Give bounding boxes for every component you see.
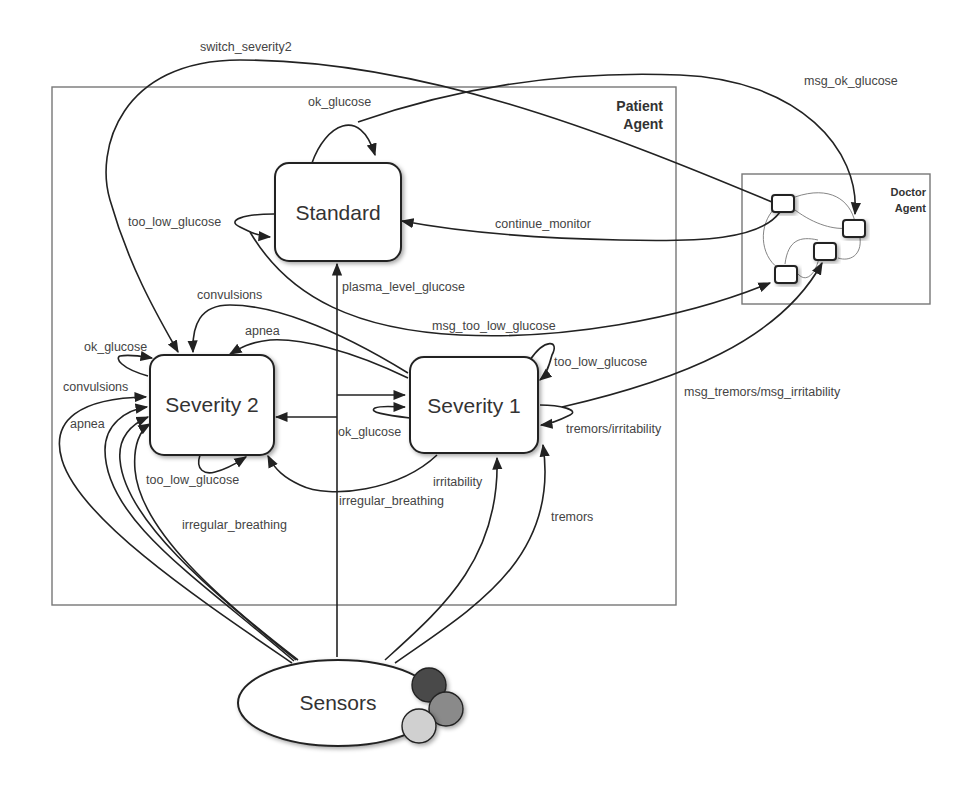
edge-label-s2-apnea-left: apnea [70,417,105,431]
edge-label-s2-convulsions-left: convulsions [63,380,128,394]
edge-s1-ok-glucose [373,406,410,418]
edge-label-s2-convulsions-top: convulsions [197,288,262,302]
state-severity2-label: Severity 2 [165,393,258,416]
edge-label-irritability: irritability [433,475,483,489]
edge-label-tremors: tremors [551,510,593,524]
edge-label-plasma-level-glucose: plasma_level_glucose [342,280,465,294]
edge-label-s1-ok-glucose: ok_glucose [338,425,401,439]
edge-s2-too-low-glucose [199,455,246,473]
state-diagram: Patient Agent Doctor Agent switch_severi… [0,0,978,788]
edge-irregular-breathing-sensors [135,424,298,660]
edge-label-msg-too-low-glucose: msg_too_low_glucose [432,319,556,333]
edge-label-standard-too-low-glucose: too_low_glucose [128,215,221,229]
state-standard-label: Standard [295,201,380,224]
state-severity1-label: Severity 1 [427,394,520,417]
sensors-node[interactable]: Sensors [238,660,463,746]
edge-continue-monitor [402,212,780,241]
edge-label-irregular-breathing-sensors: irregular_breathing [182,518,287,532]
doctor-agent-label: Doctor [891,186,927,198]
doctor-link [795,193,855,222]
edge-label-continue-monitor: continue_monitor [495,217,591,231]
edge-s2-ok-glucose [118,355,152,376]
edge-label-s2-apnea-top: apnea [245,324,280,338]
edge-msg-ok-glucose [358,74,855,214]
edge-label-s2-ok-glucose: ok_glucose [84,340,147,354]
sensor-light-icon [402,709,436,743]
edge-label-switch-severity2: switch_severity2 [200,40,292,54]
edge-standard-ok-glucose [312,125,375,163]
patient-agent-label: Patient [616,98,663,114]
doctor-agent-label-2: Agent [895,202,927,214]
edge-standard-too-low-glucose [235,214,274,237]
edge-irregular-breathing-s1 [268,455,437,492]
doctor-node [772,195,794,212]
state-severity1[interactable]: Severity 1 [410,357,538,453]
sensors-label: Sensors [299,691,376,714]
edge-label-s2-too-low-glucose: too_low_glucose [146,473,239,487]
edge-label-standard-ok-glucose: ok_glucose [308,95,371,109]
edge-label-msg-ok-glucose: msg_ok_glucose [804,74,898,88]
patient-agent-label-2: Agent [623,116,663,132]
edge-label-irregular-breathing-s1: irregular_breathing [339,494,444,508]
edge-label-s1-tremors-irritability: tremors/irritability [566,422,662,436]
doctor-node [814,243,836,260]
edge-label-s1-too-low-glucose: too_low_glucose [554,355,647,369]
doctor-link [795,210,848,228]
doctor-node [843,220,865,237]
edge-switch-severity2 [106,60,772,352]
edge-label-msg-tremors-irritability: msg_tremors/msg_irritability [684,385,841,399]
state-standard[interactable]: Standard [275,163,401,261]
doctor-link [838,238,860,259]
state-severity2[interactable]: Severity 2 [150,355,274,455]
doctor-node [775,266,797,283]
